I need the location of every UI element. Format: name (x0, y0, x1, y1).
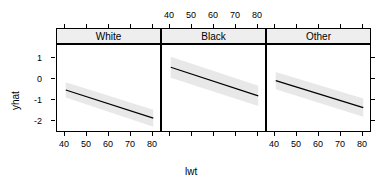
strip-label: Black (201, 30, 225, 43)
y-tick-mark-right (371, 57, 375, 58)
x-tick-label-white-60: 60 (98, 139, 118, 149)
y-tick-label-1: 1 (26, 53, 42, 63)
panel-black-plot (162, 45, 266, 132)
x-tick-label-black-60: 60 (203, 10, 223, 20)
x-tick-mark-top (318, 24, 319, 28)
x-tick-label-other-70: 70 (330, 139, 350, 149)
x-tick-mark-top (235, 24, 236, 28)
x-tick-mark-bottom (191, 132, 192, 136)
y-tick-label-neg2: -2 (22, 116, 42, 126)
strip-label: White (96, 30, 122, 43)
y-tick-mark-right (371, 120, 375, 121)
strip-header-black: Black (161, 28, 266, 44)
panel-white-plot (57, 45, 161, 132)
strip-label: Other (306, 30, 331, 43)
x-tick-mark-top (213, 24, 214, 28)
panel-other (266, 44, 371, 132)
x-tick-mark-bottom (86, 132, 87, 136)
lattice-xyplot-figure: yhat lwt 1 0 -1 -2 White Black Other (0, 0, 392, 186)
x-tick-mark-bottom (130, 132, 131, 136)
x-axis-title: lwt (185, 166, 197, 177)
x-tick-mark-top (257, 24, 258, 28)
x-tick-label-other-50: 50 (286, 139, 306, 149)
x-tick-mark-top (340, 24, 341, 28)
x-tick-mark-bottom (362, 132, 363, 136)
y-tick-mark (51, 120, 55, 121)
x-tick-label-black-80: 80 (247, 10, 267, 20)
x-tick-mark-top (296, 24, 297, 28)
x-tick-mark-bottom (213, 132, 214, 136)
y-tick-mark-right (371, 78, 375, 79)
y-tick-mark (51, 78, 55, 79)
regression-line (276, 81, 364, 108)
x-tick-label-black-70: 70 (225, 10, 245, 20)
x-tick-label-white-80: 80 (142, 139, 162, 149)
y-tick-label-neg1: -1 (22, 95, 42, 105)
x-tick-mark-top (191, 24, 192, 28)
x-tick-mark-bottom (169, 132, 170, 136)
panel-white (56, 44, 161, 132)
panel-black (161, 44, 266, 132)
x-tick-label-other-40: 40 (264, 139, 284, 149)
x-tick-mark-top (362, 24, 363, 28)
x-tick-label-white-40: 40 (54, 139, 74, 149)
x-tick-mark-bottom (235, 132, 236, 136)
strip-header-other: Other (266, 28, 371, 44)
x-tick-label-white-50: 50 (76, 139, 96, 149)
y-tick-mark (51, 99, 55, 100)
x-tick-label-white-70: 70 (120, 139, 140, 149)
x-tick-mark-top (274, 24, 275, 28)
x-tick-mark-top (86, 24, 87, 28)
x-tick-label-black-50: 50 (181, 10, 201, 20)
x-tick-label-other-80: 80 (352, 139, 372, 149)
x-tick-mark-bottom (274, 132, 275, 136)
y-tick-mark-right (371, 99, 375, 100)
x-tick-mark-bottom (257, 132, 258, 136)
x-tick-mark-bottom (318, 132, 319, 136)
y-axis-title: yhat (10, 91, 21, 110)
strip-header-white: White (56, 28, 161, 44)
x-tick-label-black-40: 40 (159, 10, 179, 20)
x-tick-mark-bottom (64, 132, 65, 136)
y-tick-mark (51, 57, 55, 58)
y-tick-label-0: 0 (26, 74, 42, 84)
x-tick-mark-bottom (108, 132, 109, 136)
regression-line (66, 90, 154, 118)
x-tick-label-other-60: 60 (308, 139, 328, 149)
x-tick-mark-top (169, 24, 170, 28)
x-tick-mark-top (108, 24, 109, 28)
panel-other-plot (267, 45, 371, 132)
x-tick-mark-bottom (296, 132, 297, 136)
x-tick-mark-top (130, 24, 131, 28)
x-tick-mark-bottom (152, 132, 153, 136)
x-tick-mark-bottom (340, 132, 341, 136)
x-tick-mark-top (152, 24, 153, 28)
x-tick-mark-top (64, 24, 65, 28)
